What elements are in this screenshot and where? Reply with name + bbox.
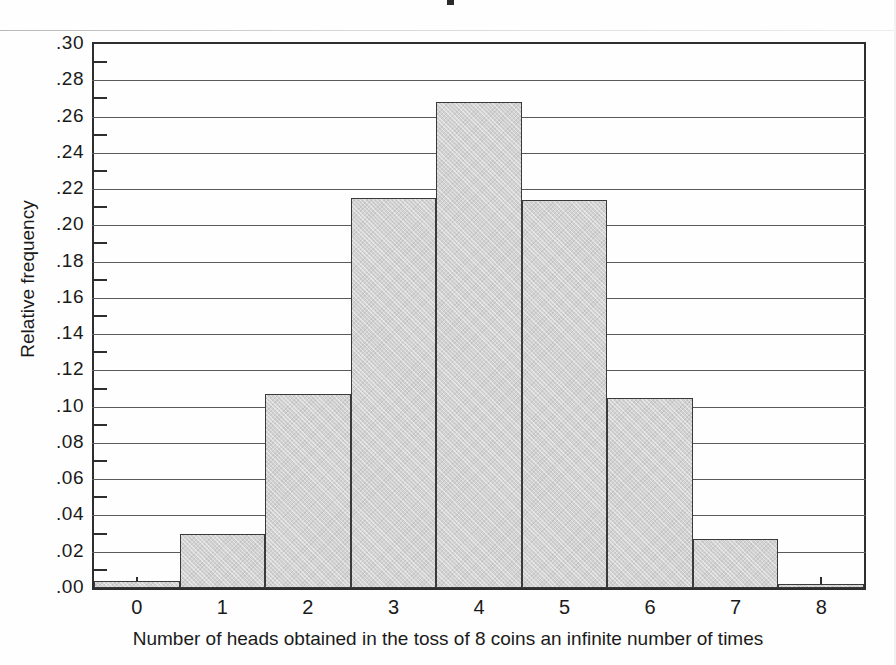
y-tick-label: .02 <box>56 540 84 562</box>
y-axis-title: Relative frequency <box>17 139 39 419</box>
plot-frame-top <box>92 42 866 44</box>
minor-tick <box>94 170 107 172</box>
scan-edge-top <box>0 30 896 31</box>
y-tick-label: .08 <box>56 431 84 453</box>
x-tick-label: 4 <box>459 596 499 619</box>
x-axis-title: Number of heads obtained in the toss of … <box>0 628 896 650</box>
minor-tick <box>94 61 107 63</box>
y-tick-label: .10 <box>56 395 84 417</box>
x-axis-tick-labels: 012345678 <box>92 596 866 624</box>
bar-2 <box>265 394 351 588</box>
gridline-.28 <box>92 80 866 81</box>
minor-tick <box>94 315 107 317</box>
bar-8 <box>778 584 864 588</box>
y-tick-label: .06 <box>56 467 84 489</box>
y-tick-label: .30 <box>56 32 84 54</box>
bar-7 <box>693 539 779 588</box>
minor-tick <box>94 206 107 208</box>
y-tick-label: .04 <box>56 503 84 525</box>
minor-tick <box>94 533 107 535</box>
y-tick-label: .26 <box>56 105 84 127</box>
y-tick-label: .12 <box>56 358 84 380</box>
bar-0 <box>94 581 180 588</box>
y-tick-label: .22 <box>56 177 84 199</box>
histogram-figure: .00.02.04.06.08.10.12.14.16.18.20.22.24.… <box>0 0 896 665</box>
x-tick-label: 6 <box>630 596 670 619</box>
x-tick-label: 3 <box>373 596 413 619</box>
scan-artifact-mark <box>447 0 454 5</box>
minor-tick <box>94 279 107 281</box>
y-tick-label: .20 <box>56 213 84 235</box>
plot-frame-right <box>864 42 866 590</box>
bar-3 <box>351 198 437 588</box>
bar-1 <box>180 534 266 588</box>
bar-4 <box>436 102 522 588</box>
x-tick-label: 7 <box>716 596 756 619</box>
minor-tick <box>94 460 107 462</box>
x-tick-label: 2 <box>288 596 328 619</box>
plot-area <box>92 42 866 590</box>
bar-5 <box>522 200 608 588</box>
bar-6 <box>607 398 693 588</box>
y-tick-label: .00 <box>56 576 84 598</box>
x-tick-label: 1 <box>202 596 242 619</box>
x-tick-label: 8 <box>801 596 841 619</box>
y-tick-label: .14 <box>56 322 84 344</box>
plot-frame-bottom <box>92 588 866 590</box>
x-tick-label: 5 <box>545 596 585 619</box>
y-axis-tick-labels: .00.02.04.06.08.10.12.14.16.18.20.22.24.… <box>0 42 84 590</box>
minor-tick <box>94 351 107 353</box>
minor-tick <box>94 569 107 571</box>
minor-tick <box>94 424 107 426</box>
minor-tick <box>94 242 107 244</box>
minor-tick <box>94 496 107 498</box>
minor-tick <box>94 134 107 136</box>
y-tick-label: .16 <box>56 286 84 308</box>
minor-tick <box>94 97 107 99</box>
y-tick-label: .18 <box>56 250 84 272</box>
minor-tick <box>94 388 107 390</box>
x-tick-label: 0 <box>117 596 157 619</box>
y-tick-label: .28 <box>56 68 84 90</box>
y-tick-label: .24 <box>56 141 84 163</box>
